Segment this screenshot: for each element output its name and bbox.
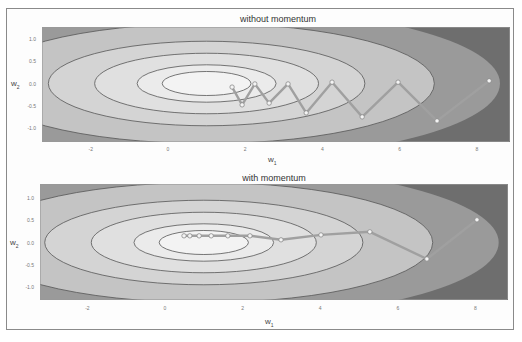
path-point — [425, 257, 429, 261]
path-point — [475, 218, 479, 222]
y-axis-label-sub: 2 — [16, 243, 19, 249]
path-point — [330, 80, 334, 84]
path-point — [267, 101, 271, 105]
x-tick-label: 4 — [312, 146, 332, 152]
y-tick-label: -1.0 — [14, 125, 36, 131]
x-tick-label: 6 — [390, 146, 410, 152]
path-point — [197, 234, 201, 238]
x-tick-label: 8 — [465, 305, 485, 311]
x-tick-label: 4 — [310, 305, 330, 311]
plot-title: without momentum — [178, 14, 378, 24]
contour-plot — [40, 184, 508, 300]
path-point — [368, 230, 372, 234]
y-tick-label: 1.0 — [14, 36, 36, 42]
x-tick-label: 8 — [467, 146, 487, 152]
y-axis-label: w2 — [11, 79, 20, 90]
y-axis-label-sub: 2 — [17, 84, 20, 90]
y-tick-label: 1.0 — [12, 195, 34, 201]
path-point — [319, 233, 323, 237]
contour-plot — [42, 27, 510, 142]
contour-level — [162, 71, 251, 95]
path-point — [230, 85, 234, 89]
x-tick-label: -2 — [77, 305, 97, 311]
path-point — [286, 82, 290, 86]
path-point — [226, 234, 230, 238]
y-tick-label: -0.5 — [12, 262, 34, 268]
x-tick-label: -2 — [81, 146, 101, 152]
path-point — [396, 80, 400, 84]
path-point — [240, 103, 244, 107]
path-point — [209, 234, 213, 238]
plot-title: with momentum — [174, 173, 374, 183]
x-axis-label: w1 — [265, 317, 274, 328]
x-tick-label: 2 — [235, 146, 255, 152]
x-tick-label: 0 — [158, 146, 178, 152]
x-tick-label: 0 — [155, 305, 175, 311]
y-axis-label: w2 — [10, 238, 19, 249]
y-tick-label: 0.5 — [12, 217, 34, 223]
y-tick-label: -0.5 — [14, 103, 36, 109]
path-point — [304, 111, 308, 115]
path-point — [279, 238, 283, 242]
path-point — [188, 234, 192, 238]
x-axis-label-sub: 1 — [274, 160, 277, 166]
x-axis-label-sub: 1 — [271, 322, 274, 328]
path-point — [487, 79, 491, 83]
x-tick-label: 6 — [388, 305, 408, 311]
y-tick-label: -1.0 — [12, 284, 34, 290]
path-point — [248, 234, 252, 238]
path-point — [435, 119, 439, 123]
x-axis-label: w1 — [268, 155, 277, 166]
path-point — [360, 115, 364, 119]
x-tick-label: 2 — [233, 305, 253, 311]
path-point — [253, 82, 257, 86]
path-point — [182, 234, 186, 238]
y-tick-label: 0.5 — [14, 58, 36, 64]
contour-level — [159, 230, 248, 254]
